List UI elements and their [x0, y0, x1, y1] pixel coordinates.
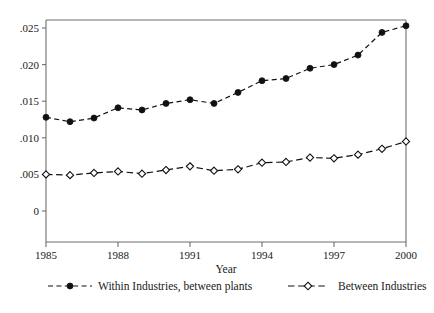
- data-point-marker: [67, 119, 73, 125]
- data-series-layer: [42, 23, 409, 179]
- plot-frame: [46, 20, 406, 242]
- data-point-marker: [258, 159, 265, 166]
- data-point-marker: [114, 168, 121, 175]
- data-point-marker: [138, 170, 145, 177]
- data-point-marker: [283, 76, 289, 82]
- y-tick-label: 0: [34, 205, 40, 217]
- x-tick-label: 1988: [107, 249, 130, 261]
- data-point-marker: [43, 114, 49, 120]
- y-tick-label: .010: [20, 132, 40, 144]
- series-line: [46, 141, 406, 175]
- data-point-marker: [162, 166, 169, 173]
- data-point-marker: [115, 105, 121, 111]
- data-point-marker: [307, 65, 313, 71]
- x-tick-label: 1985: [35, 249, 58, 261]
- line-chart-svg: 0.005.010.015.020.025 198519881991199419…: [0, 0, 434, 313]
- data-point-marker: [186, 163, 193, 170]
- legend-label: Between Industries: [338, 280, 427, 292]
- legend-marker-filled-circle: [67, 283, 73, 289]
- series-1: [43, 23, 409, 125]
- data-point-marker: [378, 145, 385, 152]
- y-axis-ticks: 0.005.010.015.020.025: [20, 22, 46, 217]
- y-tick-label: .025: [20, 22, 40, 34]
- legend-item-2[interactable]: Between Industries: [288, 280, 427, 292]
- data-point-marker: [42, 171, 49, 178]
- data-point-marker: [139, 107, 145, 113]
- x-tick-label: 1997: [323, 249, 346, 261]
- data-point-marker: [282, 158, 289, 165]
- legend-item-1[interactable]: Within Industries, between plants: [48, 280, 253, 293]
- data-point-marker: [331, 62, 337, 68]
- data-point-marker: [211, 100, 217, 106]
- chart-legend: Within Industries, between plantsBetween…: [48, 280, 427, 293]
- y-tick-label: .005: [20, 168, 40, 180]
- data-point-marker: [379, 29, 385, 35]
- data-point-marker: [66, 172, 73, 179]
- x-axis-ticks: 198519881991199419972000: [35, 242, 418, 261]
- data-point-marker: [91, 115, 97, 121]
- data-point-marker: [187, 97, 193, 103]
- data-point-marker: [402, 138, 409, 145]
- x-axis-title: Year: [215, 263, 236, 275]
- data-point-marker: [259, 78, 265, 84]
- legend-marker-hollow-diamond: [304, 282, 312, 290]
- data-point-marker: [355, 52, 361, 58]
- series-line: [46, 26, 406, 122]
- data-point-marker: [210, 167, 217, 174]
- series-2: [42, 138, 409, 179]
- data-point-marker: [306, 154, 313, 161]
- data-point-marker: [234, 166, 241, 173]
- x-tick-label: 2000: [395, 249, 418, 261]
- data-point-marker: [163, 100, 169, 106]
- data-point-marker: [330, 155, 337, 162]
- data-point-marker: [354, 151, 361, 158]
- data-point-marker: [403, 23, 409, 29]
- chart-figure: 0.005.010.015.020.025 198519881991199419…: [0, 0, 434, 313]
- x-tick-label: 1991: [179, 249, 201, 261]
- y-tick-label: .015: [20, 95, 40, 107]
- data-point-marker: [235, 89, 241, 95]
- x-tick-label: 1994: [251, 249, 274, 261]
- y-tick-label: .020: [20, 59, 40, 71]
- legend-label: Within Industries, between plants: [98, 280, 253, 293]
- data-point-marker: [90, 169, 97, 176]
